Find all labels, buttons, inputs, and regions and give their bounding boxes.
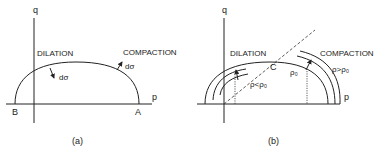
dsigma-arrow-right — [117, 62, 122, 70]
rho0-label: ρ₀ — [290, 68, 298, 77]
point-a-label: A — [135, 107, 141, 117]
yield-arc-right-1 — [297, 56, 335, 104]
rho-greater-label: ρ>ρ₀ — [332, 65, 349, 74]
rho-less-label: ρ<ρ₀ — [250, 80, 267, 89]
dsigma-label-left: dσ — [59, 73, 68, 82]
point-b-label: B — [12, 107, 18, 117]
q-label-b: q — [222, 5, 227, 15]
yield-arc-left-1 — [213, 69, 246, 100]
arrow-right-b — [306, 60, 311, 70]
dsigma-arrow-left — [50, 68, 54, 78]
compaction-label-b: COMPACTION — [320, 49, 374, 58]
panel-a: q p B A DILATION COMPACTION dσ dσ (a) — [6, 5, 177, 146]
dsigma-label-right: dσ — [125, 62, 134, 71]
p-label-a: p — [152, 92, 157, 102]
caption-b: (b) — [268, 136, 279, 146]
arrow-left-b — [236, 70, 238, 80]
yield-surface-diagram: q p B A DILATION COMPACTION dσ dσ (a) q … — [0, 0, 387, 155]
figure: q p B A DILATION COMPACTION dσ dσ (a) q … — [0, 0, 387, 155]
dilation-label-a: DILATION — [37, 49, 74, 58]
dilation-label-b: DILATION — [230, 49, 267, 58]
compaction-label-a: COMPACTION — [123, 48, 177, 57]
caption-a: (a) — [72, 136, 83, 146]
panel-b: q p DILATION COMPACTION C ρ₀ ρ<ρ₀ ρ>ρ₀ (… — [197, 5, 374, 146]
q-label-a: q — [33, 5, 38, 15]
point-c-label: C — [270, 62, 277, 72]
p-label-b: p — [344, 92, 349, 102]
